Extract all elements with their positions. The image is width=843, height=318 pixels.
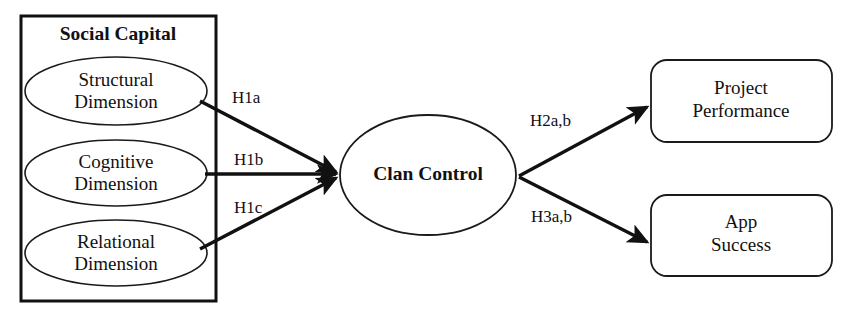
node-app-success-line1: App bbox=[725, 211, 758, 232]
edge-label-h1c: H1c bbox=[234, 198, 263, 217]
node-cognitive-dimension-line1: Cognitive bbox=[79, 151, 154, 172]
edge-h1a bbox=[200, 101, 336, 172]
social-capital-title: Social Capital bbox=[60, 23, 177, 44]
node-relational-dimension-line2: Dimension bbox=[74, 253, 158, 274]
edge-label-h3ab: H3a,b bbox=[531, 207, 572, 226]
research-model-diagram: Social Capital Structural Dimension Cogn… bbox=[0, 0, 843, 318]
node-project-performance-line2: Performance bbox=[692, 100, 789, 121]
edge-label-h2ab: H2a,b bbox=[530, 111, 571, 130]
edge-label-h1a: H1a bbox=[232, 88, 261, 107]
node-project-performance-line1: Project bbox=[714, 77, 769, 98]
node-clan-control-label: Clan Control bbox=[373, 163, 483, 184]
node-structural-dimension-line1: Structural bbox=[79, 69, 154, 90]
node-structural-dimension-line2: Dimension bbox=[74, 91, 158, 112]
model-svg: Social Capital Structural Dimension Cogn… bbox=[0, 0, 843, 318]
node-app-success-line2: Success bbox=[711, 234, 771, 255]
edge-label-h1b: H1b bbox=[234, 150, 263, 169]
edge-h1c bbox=[200, 178, 336, 249]
node-cognitive-dimension-line2: Dimension bbox=[74, 173, 158, 194]
node-relational-dimension-line1: Relational bbox=[77, 231, 155, 252]
